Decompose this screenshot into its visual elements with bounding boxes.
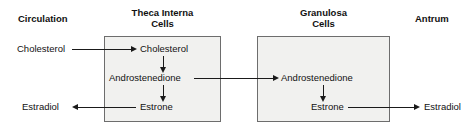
theca-estrone-label: Estrone bbox=[140, 101, 173, 112]
circulation-cholesterol-label: Cholesterol bbox=[17, 43, 65, 54]
granulosa-heading-line-2: Cells bbox=[257, 18, 390, 29]
granulosa-estrone-to-antrum-estradiol-line bbox=[348, 107, 416, 108]
theca-androstenedione-to-estrone-arrowhead-icon bbox=[160, 96, 166, 102]
theca-interna-cells-heading: Theca Interna Cells bbox=[104, 7, 221, 29]
androstenedione-transfer-line bbox=[194, 78, 276, 79]
theca-estrone-to-circulation-estradiol-arrowhead-icon bbox=[72, 104, 78, 110]
cholesterol-uptake-arrow-line bbox=[72, 49, 134, 50]
granulosa-heading-line-1: Granulosa bbox=[257, 7, 390, 18]
granulosa-estrone-to-antrum-estradiol-arrowhead-icon bbox=[414, 104, 420, 110]
granulosa-androstenedione-label: Androstenedione bbox=[281, 72, 353, 83]
granulosa-cells-heading: Granulosa Cells bbox=[257, 7, 390, 29]
circulation-estradiol-label: Estradiol bbox=[22, 101, 59, 112]
theca-estrone-to-circulation-estradiol-line bbox=[78, 107, 136, 108]
granulosa-estrone-label: Estrone bbox=[311, 101, 344, 112]
antrum-estradiol-label: Estradiol bbox=[424, 101, 461, 112]
circulation-heading: Circulation bbox=[18, 13, 68, 24]
cholesterol-uptake-arrowhead-icon bbox=[131, 46, 137, 52]
androstenedione-transfer-arrowhead-icon bbox=[273, 75, 279, 81]
theca-heading-line-1: Theca Interna bbox=[104, 7, 221, 18]
theca-cholesterol-label: Cholesterol bbox=[140, 43, 188, 54]
theca-cholesterol-to-androstenedione-arrowhead-icon bbox=[160, 67, 166, 73]
granulosa-androstenedione-to-estrone-arrowhead-icon bbox=[320, 96, 326, 102]
antrum-heading: Antrum bbox=[415, 13, 449, 24]
steroidogenesis-diagram: Circulation Theca Interna Cells Granulos… bbox=[0, 0, 475, 131]
theca-androstenedione-label: Androstenedione bbox=[109, 72, 181, 83]
theca-heading-line-2: Cells bbox=[104, 18, 221, 29]
